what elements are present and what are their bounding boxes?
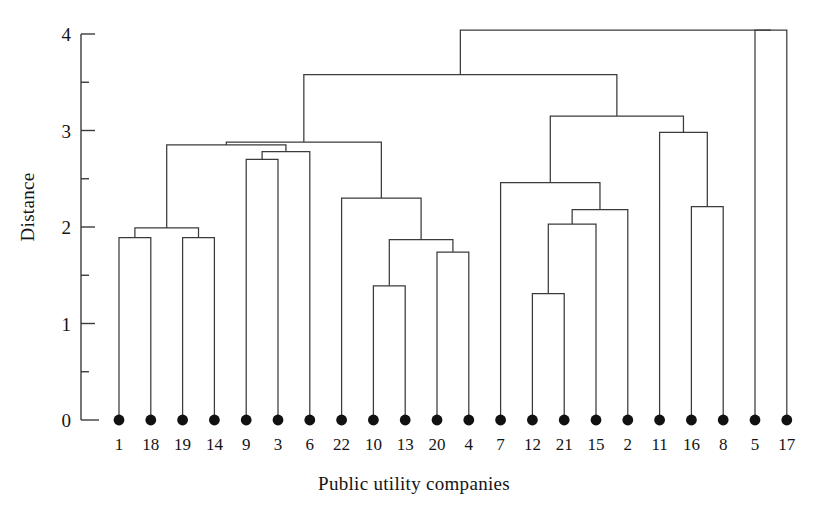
leaf-label: 7	[496, 435, 505, 454]
y-axis: 01234	[62, 24, 100, 431]
leaf-nodes: 11819149362210132047122115211168517	[114, 415, 796, 454]
merge-link	[660, 132, 708, 420]
y-tick-label: 2	[62, 217, 72, 238]
merge-link	[262, 152, 310, 420]
merge-link	[548, 224, 596, 420]
leaf-label: 13	[397, 435, 414, 454]
leaf-dot	[114, 415, 125, 426]
leaf-label: 21	[556, 435, 573, 454]
merge-link	[119, 238, 151, 420]
leaf-dot	[241, 415, 252, 426]
y-tick-label: 1	[62, 314, 72, 335]
leaf-dot	[400, 415, 411, 426]
leaf-dot	[336, 415, 347, 426]
merge-link	[501, 183, 600, 420]
leaf-dot	[209, 415, 220, 426]
dendrogram-figure: 01234 1181914936221013204712211521116851…	[0, 0, 828, 517]
leaf-dot	[527, 415, 538, 426]
leaf-label: 12	[524, 435, 541, 454]
leaf-label: 3	[274, 435, 283, 454]
merge-link	[532, 294, 564, 420]
leaf-dot	[718, 415, 729, 426]
leaf-dot	[495, 415, 506, 426]
leaf-label: 1	[115, 435, 124, 454]
y-tick-label: 4	[62, 24, 72, 45]
dendrogram-tree	[119, 30, 787, 420]
leaf-dot	[622, 415, 633, 426]
leaf-label: 10	[365, 435, 382, 454]
leaf-dot	[686, 415, 697, 426]
merge-link	[550, 116, 683, 183]
leaf-dot	[273, 415, 284, 426]
leaf-dot	[463, 415, 474, 426]
leaf-label: 11	[651, 435, 667, 454]
merge-link	[572, 210, 628, 420]
x-axis-title: Public utility companies	[0, 473, 828, 495]
merge-link	[246, 159, 278, 420]
y-tick-label: 3	[62, 121, 72, 142]
merge-link	[373, 286, 405, 420]
leaf-label: 16	[683, 435, 700, 454]
leaf-label: 4	[465, 435, 474, 454]
merge-link	[389, 240, 453, 286]
y-axis-title: Distance	[17, 147, 39, 267]
leaf-label: 18	[142, 435, 159, 454]
leaf-dot	[304, 415, 315, 426]
leaf-dot	[177, 415, 188, 426]
leaf-dot	[781, 415, 792, 426]
merge-link	[183, 238, 215, 420]
leaf-label: 20	[429, 435, 446, 454]
leaf-dot	[750, 415, 761, 426]
leaf-dot	[145, 415, 156, 426]
merge-link	[460, 30, 771, 74]
leaf-dot	[654, 415, 665, 426]
leaf-dot	[591, 415, 602, 426]
leaf-label: 9	[242, 435, 251, 454]
merge-link	[226, 142, 381, 198]
leaf-dot	[368, 415, 379, 426]
leaf-label: 8	[719, 435, 728, 454]
leaf-label: 22	[333, 435, 350, 454]
merge-link	[342, 198, 422, 420]
leaf-label: 14	[206, 435, 224, 454]
merge-link	[755, 30, 787, 420]
merge-link	[691, 207, 723, 420]
merge-link	[437, 252, 469, 420]
merge-link	[135, 228, 199, 238]
merge-link	[167, 145, 286, 228]
leaf-label: 5	[751, 435, 760, 454]
y-tick-label: 0	[62, 410, 72, 431]
leaf-label: 15	[588, 435, 605, 454]
leaf-label: 6	[306, 435, 315, 454]
leaf-dot	[559, 415, 570, 426]
leaf-label: 2	[624, 435, 633, 454]
leaf-label: 19	[174, 435, 191, 454]
leaf-label: 17	[778, 435, 796, 454]
merge-link	[304, 75, 617, 143]
leaf-dot	[432, 415, 443, 426]
dendrogram-plot: 01234 1181914936221013204712211521116851…	[0, 0, 828, 517]
